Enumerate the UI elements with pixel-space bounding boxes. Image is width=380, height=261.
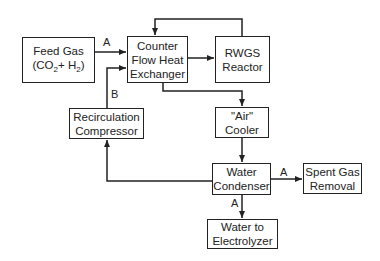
recirc-line2: Compressor xyxy=(75,124,138,138)
spent-line2: Removal xyxy=(310,179,355,193)
cooler-line2: Cooler xyxy=(225,123,259,137)
condenser-line2: Condenser xyxy=(213,179,269,193)
air-cooler-node: "Air" Cooler xyxy=(215,107,269,138)
recirc-line1: Recirculation xyxy=(73,110,139,124)
hx-line1: Counter xyxy=(137,39,178,53)
hx-line3: Exchanger xyxy=(130,67,185,81)
feed-gas-formula: (CO2+ H2) xyxy=(32,58,84,77)
water-condenser-node: Water Condenser xyxy=(212,163,271,195)
feed-gas-node: Feed Gas (CO2+ H2) xyxy=(22,37,95,83)
hx-line2: Flow Heat xyxy=(132,53,184,67)
rwgs-line1: RWGS xyxy=(225,46,261,60)
cooler-line1: "Air" xyxy=(231,109,253,123)
water-line2: Electrolyzer xyxy=(212,234,272,248)
water-to-electrolyzer-node: Water to Electrolyzer xyxy=(207,219,278,249)
edge-label-recirc-b: B xyxy=(111,88,118,100)
rwgs-line2: Reactor xyxy=(222,60,262,74)
spent-line1: Spent Gas xyxy=(305,165,359,179)
recirculation-compressor-node: Recirculation Compressor xyxy=(69,108,144,139)
heat-exchanger-node: Counter Flow Heat Exchanger xyxy=(127,36,188,83)
condenser-line1: Water xyxy=(226,165,256,179)
edge-label-spent-a: A xyxy=(280,166,287,178)
edge-label-feed-a: A xyxy=(103,36,110,48)
spent-gas-removal-node: Spent Gas Removal xyxy=(303,163,362,194)
rwgs-reactor-node: RWGS Reactor xyxy=(215,36,270,83)
feed-gas-label: Feed Gas xyxy=(33,44,84,58)
water-line1: Water to xyxy=(221,220,264,234)
edge-label-water-a: A xyxy=(231,197,238,209)
